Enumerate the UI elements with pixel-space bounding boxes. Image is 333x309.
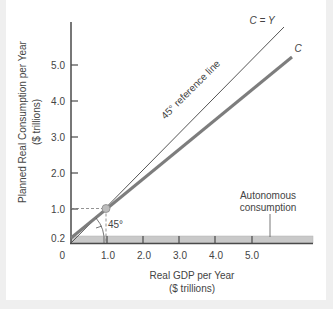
y-tick-label-3: 3.0 <box>51 132 65 143</box>
intersection-point <box>102 205 110 213</box>
origin-label: 0 <box>59 250 65 261</box>
label-reference-line: 45° reference line <box>159 58 223 122</box>
y-axis-unit: ($ trillions) <box>31 99 42 145</box>
angle-arc-tick <box>96 226 102 228</box>
label-45-degrees: 45° <box>108 219 123 230</box>
label-consumption: consumption <box>240 202 297 213</box>
label-c-equals-y: C = Y <box>249 15 275 26</box>
y-tick-label-4: 4.0 <box>51 96 65 107</box>
y-tick-label-2: 2.0 <box>51 168 65 179</box>
label-autonomous: Autonomous <box>240 190 296 201</box>
x-tick-label-5: 5.0 <box>245 250 259 261</box>
label-c: C <box>294 43 302 54</box>
x-tick-label-2: 2.0 <box>137 250 151 261</box>
y-ticks <box>71 65 78 209</box>
y-tick-label-1: 1.0 <box>51 204 65 215</box>
x-tick-label-3: 3.0 <box>173 250 187 261</box>
y-axis-title: Planned Real Consumption per Year <box>17 40 28 202</box>
x-tick-label-4: 4.0 <box>209 250 223 261</box>
x-axis-title: Real GDP per Year <box>150 270 236 281</box>
x-tick-label-1: 1.0 <box>101 250 115 261</box>
y-tick-label-5: 5.0 <box>51 60 65 71</box>
y-tick-label-0-2: 0.2 <box>51 233 65 244</box>
x-axis-unit: ($ trillions) <box>169 283 215 294</box>
consumption-chart: 5.0 4.0 3.0 2.0 1.0 0.2 0 1.0 2.0 3.0 4.… <box>0 0 333 309</box>
